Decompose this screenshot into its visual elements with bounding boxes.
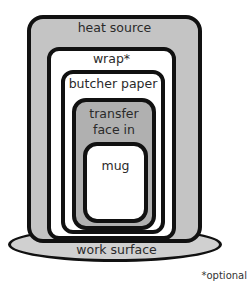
transfer-label-line2: face in (76, 123, 152, 137)
butcher-paper-label: butcher paper (65, 77, 161, 91)
footnote: *optional (201, 270, 247, 281)
transfer-label-line1: transfer (76, 107, 152, 121)
wrap-label: wrap* (51, 52, 172, 66)
work-surface-label: work surface (0, 242, 233, 257)
mug-label: mug (87, 159, 144, 173)
heat-source-label: heat source (31, 21, 198, 35)
mug-box: mug (83, 142, 148, 223)
